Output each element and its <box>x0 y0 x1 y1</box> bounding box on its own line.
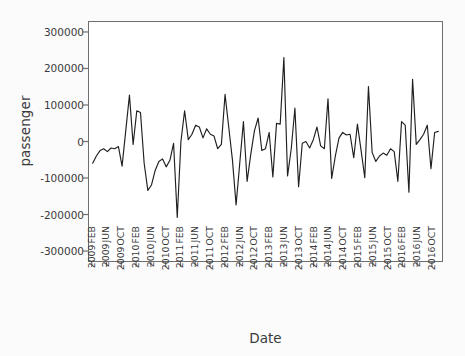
x-axis-title: Date <box>88 330 443 346</box>
y-axis-title-label: passenger <box>17 95 33 166</box>
y-tick-label: -100000 <box>32 173 84 184</box>
chart-figure: passenger 3000002000001000000-100000-200… <box>0 0 465 356</box>
x-tick-label-year: 2016 <box>427 247 437 271</box>
y-tick-label: 100000 <box>32 100 84 111</box>
y-tick-label: 200000 <box>32 63 84 74</box>
y-tick-label: 0 <box>32 137 84 148</box>
y-tick-label: -200000 <box>32 210 84 221</box>
x-axis-title-label: Date <box>249 330 281 346</box>
y-tick-label: -300000 <box>32 246 84 257</box>
y-tick-label-group: 3000002000001000000-100000-200000-300000 <box>32 0 84 356</box>
y-tick-label: 300000 <box>32 27 84 38</box>
x-tick-label-month: OCT <box>427 226 437 246</box>
x-tick-label: OCT2016 <box>421 268 443 332</box>
x-tick-label-group: FEB2009JUN2009OCT2009FEB2010JUN2010OCT20… <box>88 268 443 334</box>
passenger-series-line <box>93 57 439 217</box>
